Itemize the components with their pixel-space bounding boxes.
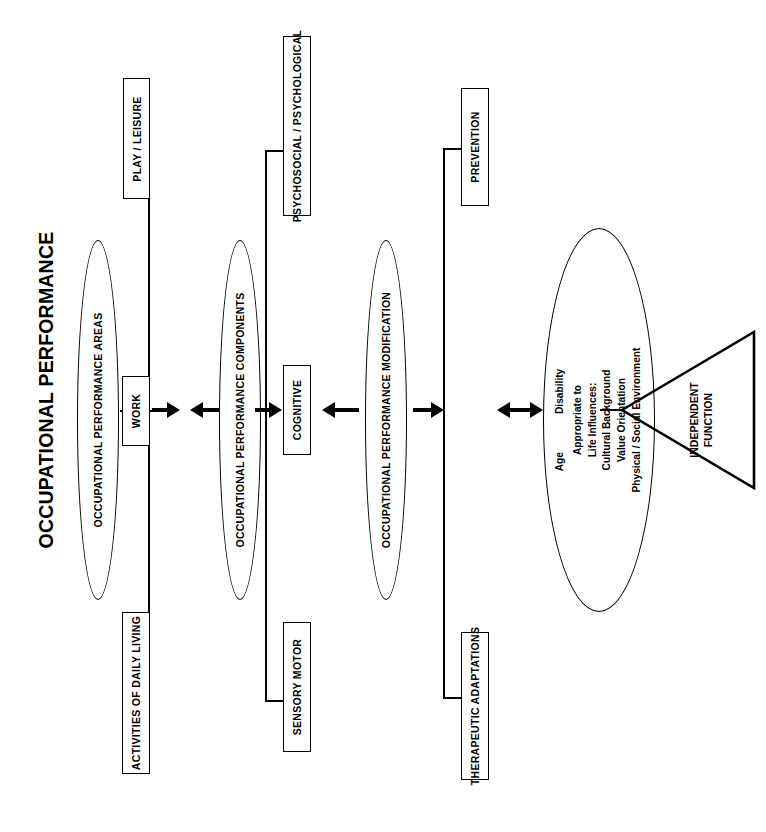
box-prevention-label: PREVENTION	[469, 111, 481, 182]
outcome-disability-label: Disability	[554, 369, 565, 414]
box-activities-of-daily-living-label: ACTIVITIES OF DAILY LIVING	[130, 616, 142, 770]
arrow-double-shaft	[508, 408, 532, 412]
box-play-leisure-label: PLAY / LEISURE	[131, 96, 143, 181]
arrow-right-head-1	[167, 402, 180, 418]
arrow-left-shaft-2	[335, 408, 359, 412]
box-therapeutic-adaptations[interactable]: THERAPEUTIC ADAPTATIONS	[461, 632, 489, 780]
outcome-line-2: Life Influences:	[586, 348, 601, 493]
connector-branch-sensory	[265, 700, 283, 702]
box-cognitive[interactable]: COGNITIVE	[283, 365, 311, 455]
connector-spine-modification	[443, 148, 445, 699]
connector-branch-psychosocial	[265, 150, 283, 152]
box-psychosocial-psychological[interactable]: PSYCHOSOCIAL / PSYCHOLOGICAL	[283, 36, 311, 216]
arrow-feed-modification-head	[431, 402, 444, 418]
box-prevention[interactable]: PREVENTION	[461, 88, 489, 206]
result-label: INDEPENDENT FUNCTION	[688, 382, 715, 457]
ellipse-performance-areas-label: OCCUPATIONAL PERFORMANCE AREAS	[92, 313, 104, 528]
box-therapeutic-adaptations-label: THERAPEUTIC ADAPTATIONS	[469, 627, 481, 785]
box-activities-of-daily-living[interactable]: ACTIVITIES OF DAILY LIVING	[122, 612, 150, 774]
box-cognitive-label: COGNITIVE	[291, 380, 303, 440]
result-label-line2: FUNCTION	[702, 382, 716, 457]
arrow-left-shaft-1	[203, 408, 219, 412]
arrow-feed-cognitive-head	[269, 402, 282, 418]
box-work[interactable]: WORK	[122, 376, 150, 446]
result-independent-function: INDEPENDENT FUNCTION	[614, 330, 762, 510]
arrow-feed-modification-shaft	[413, 408, 433, 412]
ellipse-performance-components-label: OCCUPATIONAL PERFORMANCE COMPONENTS	[234, 293, 246, 548]
ellipse-performance-components: OCCUPATIONAL PERFORMANCE COMPONENTS	[219, 240, 261, 600]
arrow-right-shaft-1	[152, 408, 168, 412]
box-sensory-motor[interactable]: SENSORY MOTOR	[283, 622, 311, 752]
page-title: OCCUPATIONAL PERFORMANCE	[35, 225, 59, 555]
outcome-age-label: Age	[554, 452, 565, 471]
box-work-label: WORK	[130, 394, 142, 428]
box-play-leisure[interactable]: PLAY / LEISURE	[123, 78, 150, 199]
arrow-double-head-left	[497, 402, 510, 418]
arrow-left-head-1	[190, 402, 203, 418]
result-label-line1: INDEPENDENT	[688, 382, 702, 457]
diagram-canvas: OCCUPATIONAL PERFORMANCE OCCUPATIONAL PE…	[0, 0, 766, 832]
connector-branch-therapeutic	[443, 697, 461, 699]
connector-branch-prevention	[443, 148, 461, 150]
arrow-left-head-2	[322, 402, 335, 418]
box-sensory-motor-label: SENSORY MOTOR	[291, 639, 303, 735]
connector-spine-components	[265, 150, 267, 702]
ellipse-performance-modification-label: OCCUPATIONAL PERFORMANCE MODIFICATION	[380, 292, 392, 548]
ellipse-performance-areas: OCCUPATIONAL PERFORMANCE AREAS	[77, 240, 119, 600]
outcome-line-1: Appropriate to	[571, 348, 586, 493]
box-psychosocial-psychological-label: PSYCHOSOCIAL / PSYCHOLOGICAL	[291, 30, 303, 223]
ellipse-performance-modification: OCCUPATIONAL PERFORMANCE MODIFICATION	[365, 240, 407, 600]
arrow-double-head-right	[530, 402, 543, 418]
